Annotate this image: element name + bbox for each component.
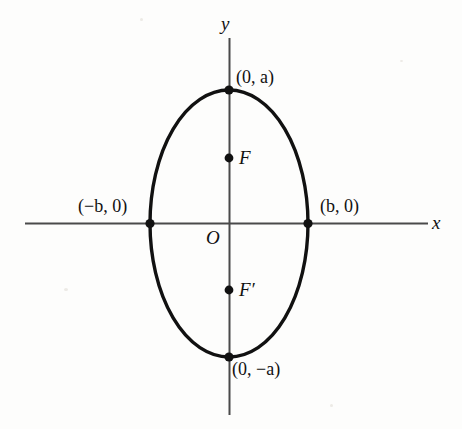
x-axis-label: x	[432, 213, 440, 232]
point-upper-focus	[225, 154, 234, 163]
origin-label: O	[206, 228, 220, 247]
y-axis-label: y	[221, 14, 229, 33]
top-vertex-label: (0, a)	[236, 68, 274, 86]
point-top-vertex	[224, 85, 233, 94]
point-right-covertex	[303, 219, 312, 228]
right-covertex-label: (b, 0)	[320, 197, 359, 215]
upper-focus-label: F	[239, 148, 251, 167]
point-left-covertex	[145, 219, 154, 228]
diagram-canvas	[0, 0, 462, 429]
ellipse-figure: y x O (0, a) (0, −a) (−b, 0) (b, 0) F F′	[0, 0, 462, 429]
left-covertex-label: (−b, 0)	[78, 197, 127, 215]
scan-speckle	[64, 288, 68, 291]
point-lower-focus	[225, 286, 234, 295]
lower-focus-label: F′	[239, 280, 255, 299]
scan-speckle	[140, 18, 143, 21]
bottom-vertex-label: (0, −a)	[232, 360, 280, 378]
scan-speckle	[330, 404, 333, 407]
scan-speckle	[400, 60, 403, 62]
